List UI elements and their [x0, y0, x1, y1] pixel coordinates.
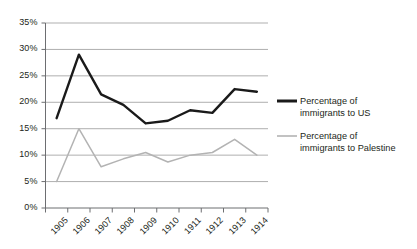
legend-swatches	[277, 101, 297, 136]
y-axis-tick-label: 30%	[0, 43, 38, 53]
y-axis-tick-label: 20%	[0, 96, 38, 106]
x-axis-ticks	[46, 208, 269, 213]
legend-label-us-line1: Percentage of	[300, 96, 370, 108]
axes	[42, 23, 269, 208]
chart-canvas	[0, 0, 417, 249]
y-axis-tick-label: 0%	[0, 202, 38, 212]
legend-entry-palestine: Percentage of immigrants to Palestine	[300, 131, 396, 154]
y-axis-tick-label: 35%	[0, 17, 38, 27]
legend-label-palestine-line2: immigrants to Palestine	[300, 143, 396, 155]
legend-entry-us: Percentage of immigrants to US	[300, 96, 370, 119]
series-lines	[57, 55, 257, 182]
y-axis-tick-label: 15%	[0, 123, 38, 133]
y-axis-tick-label: 25%	[0, 70, 38, 80]
y-axis-tick-label: 5%	[0, 176, 38, 186]
y-axis-tick-label: 10%	[0, 149, 38, 159]
line-chart: 0%5%10%15%20%25%30%35% 19051906190719081…	[0, 0, 417, 249]
legend-label-palestine-line1: Percentage of	[300, 131, 396, 143]
legend-label-us-line2: immigrants to US	[300, 108, 370, 120]
